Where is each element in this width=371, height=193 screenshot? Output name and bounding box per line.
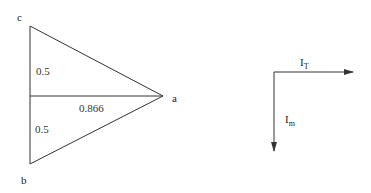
im-label-sub: m	[289, 119, 296, 128]
im-label: Im	[285, 113, 296, 128]
upper-half-value: 0.5	[36, 65, 50, 77]
vertex-label-c: c	[17, 11, 22, 23]
vertex-label-b: b	[21, 174, 27, 186]
vertex-label-a: a	[172, 92, 177, 104]
lower-half-value: 0.5	[35, 123, 49, 135]
side-ca	[30, 26, 163, 96]
phasor-diagram	[274, 72, 353, 151]
it-label: IT	[300, 56, 309, 71]
median-value: 0.866	[79, 102, 104, 114]
it-label-sub: T	[304, 62, 309, 71]
triangle	[30, 26, 163, 164]
diagram-canvas: c b a 0.5 0.866 0.5 IT Im	[0, 0, 371, 193]
